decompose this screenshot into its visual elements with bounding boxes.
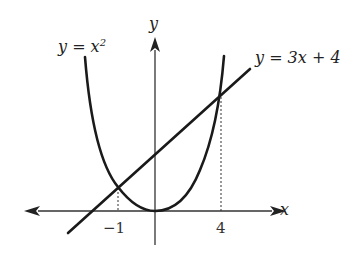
tick-label-neg1: −1 <box>103 221 125 236</box>
parabola-label: y = x2 <box>58 38 106 55</box>
tick-label-4: 4 <box>216 221 226 236</box>
parabola-equation-text: y = x <box>58 37 100 56</box>
x-axis-left-arrow-icon <box>24 206 40 216</box>
graph-svg <box>0 0 362 257</box>
y-axis-label: y <box>149 16 158 32</box>
x-axis-label: x <box>280 202 289 218</box>
parabola-exponent: 2 <box>100 37 106 48</box>
line-label: y = 3x + 4 <box>255 50 341 66</box>
function-graph-diagram: y = x2 y = 3x + 4 y x −1 4 <box>0 0 362 257</box>
y-axis-arrow-icon <box>150 37 160 52</box>
line-curve <box>68 69 250 233</box>
